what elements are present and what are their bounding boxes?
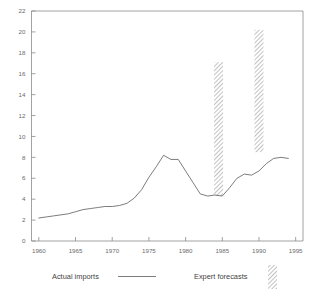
- legend-label-actual-imports: Actual imports: [52, 272, 99, 281]
- x-axis-ticks: 19601965197019751980198519901995: [32, 237, 303, 254]
- x-tick-label: 1990: [252, 247, 266, 254]
- forecast-bars: [214, 30, 263, 196]
- y-tick-label: 10: [19, 133, 26, 140]
- legend-hatch-marker: [268, 265, 277, 289]
- x-tick-label: 1970: [105, 247, 119, 254]
- x-tick-label: 1980: [179, 247, 193, 254]
- legend-label-expert-forecasts: Expert forecasts: [194, 272, 248, 281]
- y-tick-label: 14: [19, 91, 26, 98]
- x-tick-label: 1965: [69, 247, 83, 254]
- forecast-range-bar: [214, 62, 223, 196]
- forecast-range-bar: [254, 30, 263, 152]
- y-tick-label: 4: [22, 195, 26, 202]
- y-axis-ticks: 0246810121416182022: [19, 7, 36, 244]
- y-tick-label: 18: [19, 49, 26, 56]
- chart-legend: Actual imports Expert forecasts: [52, 265, 277, 289]
- x-tick-label: 1960: [32, 247, 46, 254]
- y-tick-label: 22: [19, 7, 26, 14]
- x-tick-label: 1985: [215, 247, 229, 254]
- y-tick-label: 0: [22, 237, 26, 244]
- x-tick-label: 1995: [289, 247, 303, 254]
- y-tick-label: 16: [19, 70, 26, 77]
- y-tick-label: 2: [22, 216, 26, 223]
- imports-forecast-chart: 0246810121416182022 19601965197019751980…: [0, 0, 314, 301]
- y-tick-label: 6: [22, 174, 26, 181]
- y-tick-label: 20: [19, 28, 26, 35]
- y-tick-label: 8: [22, 154, 26, 161]
- chart-figure: 0246810121416182022 19601965197019751980…: [0, 0, 314, 301]
- x-tick-label: 1975: [142, 247, 156, 254]
- y-tick-label: 12: [19, 112, 26, 119]
- actual-imports-line: [39, 155, 288, 218]
